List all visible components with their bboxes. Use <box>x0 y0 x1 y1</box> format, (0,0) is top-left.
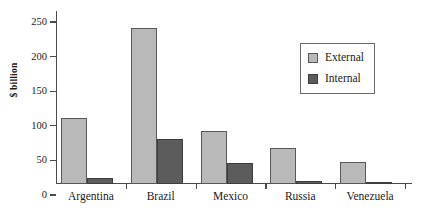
bar-argentina-external <box>61 118 87 184</box>
y-tick <box>50 160 56 161</box>
y-tick-label: 100 <box>31 121 47 132</box>
legend-item-internal: Internal <box>308 71 364 87</box>
legend-swatch-internal <box>308 74 318 84</box>
x-axis-label-russia: Russia <box>265 190 335 202</box>
plot-area: 050100150200250 <box>56 11 405 184</box>
bar-argentina-internal <box>87 178 113 184</box>
x-axis-label-mexico: Mexico <box>196 190 266 202</box>
y-tick-label: 50 <box>37 155 48 166</box>
bar-brazil-internal <box>157 139 183 184</box>
bar-russia-external <box>270 148 296 184</box>
bar-venezuela-external <box>340 162 366 184</box>
y-tick-label: 0 <box>42 190 47 201</box>
legend-label-internal: Internal <box>325 73 361 85</box>
x-axis-label-venezuela: Venezuela <box>335 190 405 202</box>
y-tick <box>50 125 56 126</box>
x-axis-label-argentina: Argentina <box>56 190 126 202</box>
y-tick <box>50 21 56 22</box>
grouped-bar-chart: $ billion 050100150200250 External Inter… <box>0 0 421 217</box>
y-tick-label: 200 <box>31 51 47 62</box>
legend-item-external: External <box>308 50 364 66</box>
legend-label-external: External <box>325 52 364 64</box>
y-tick-label: 250 <box>31 17 47 28</box>
x-tick <box>196 183 197 189</box>
y-tick <box>50 91 56 92</box>
bar-brazil-external <box>131 28 157 184</box>
y-tick-label: 150 <box>31 86 47 97</box>
bar-venezuela-internal <box>366 182 392 184</box>
x-tick <box>335 183 336 189</box>
legend: External Internal <box>300 43 375 94</box>
bar-russia-internal <box>296 181 322 184</box>
x-tick <box>405 183 406 189</box>
y-axis-title: $ billion <box>9 45 19 115</box>
y-tick <box>50 56 56 57</box>
bar-mexico-external <box>201 131 227 184</box>
bar-mexico-internal <box>227 163 253 184</box>
legend-swatch-external <box>308 53 318 63</box>
x-axis-label-brazil: Brazil <box>126 190 196 202</box>
x-tick <box>265 183 266 189</box>
x-tick <box>126 183 127 189</box>
